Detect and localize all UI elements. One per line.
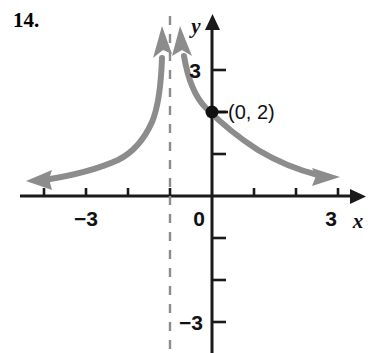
graph-canvas: −3 0 3 3 −3 y x (0, 2) [0, 0, 372, 353]
x-axis-tick-label-negative-3: −3 [74, 207, 98, 230]
y-axis-tick-label-negative-3: −3 [179, 311, 203, 334]
x-axis-tick-label-zero: 0 [193, 207, 205, 230]
y-intercept-point-label: (0, 2) [228, 101, 275, 123]
y-axis-arrow-icon [205, 14, 220, 30]
x-axis-tick-label-3: 3 [325, 207, 337, 230]
y-intercept-point-marker [206, 106, 219, 119]
curve-left-branch-path [44, 58, 162, 180]
y-axis-tick-label-3: 3 [189, 59, 201, 82]
curve-left-branch [26, 26, 172, 190]
curve-left-arrow-icon [26, 170, 52, 190]
curve-right-up-arrow-icon [172, 26, 192, 56]
exercise-figure: 14. [0, 0, 372, 353]
y-axis-name-label: y [188, 14, 201, 38]
x-axis-name-label: x [352, 209, 364, 233]
curve-right-arrow-icon [312, 168, 340, 186]
x-axis-arrow-icon [350, 189, 366, 204]
